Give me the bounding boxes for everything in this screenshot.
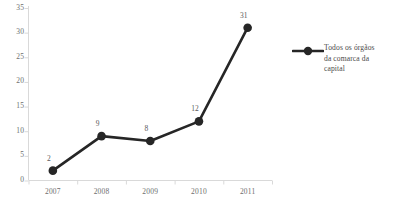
series-data-label: 12 <box>185 105 205 113</box>
chart-legend: Todos os órgãos da comarca da capital <box>292 43 394 75</box>
series-data-label: 2 <box>39 155 59 163</box>
legend-marker-icon <box>292 44 324 58</box>
series-data-labels: 2981231 <box>0 0 280 199</box>
legend-dot-icon <box>304 47 312 55</box>
series-data-label: 8 <box>136 125 156 133</box>
legend-entry-label: Todos os órgãos da comarca da capital <box>324 43 375 75</box>
series-data-label: 31 <box>234 12 254 20</box>
series-data-label: 9 <box>88 120 108 128</box>
line-chart: 05101520253035 20072008200920102011 2981… <box>0 0 394 199</box>
plot-area: 05101520253035 20072008200920102011 2981… <box>0 0 280 199</box>
legend-marker-svg <box>292 44 324 58</box>
